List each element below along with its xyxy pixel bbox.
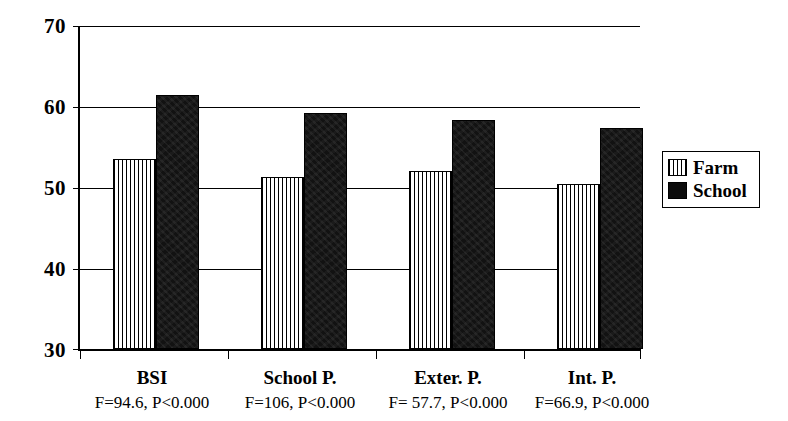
y-tick-label-40: 40 <box>20 259 66 280</box>
y-tick-mark-40 <box>73 269 81 270</box>
y-tick-label-60: 60 <box>20 97 66 118</box>
legend-swatch-farm-icon <box>668 159 687 176</box>
legend-item-school: School <box>668 179 754 202</box>
legend-label-farm: Farm <box>693 158 738 177</box>
y-tick-mark-70 <box>73 26 81 27</box>
y-tick-label-70: 70 <box>20 16 66 37</box>
gridline-70 <box>80 26 640 27</box>
chart-legend: Farm School <box>662 151 760 208</box>
bar-school-school-p <box>304 113 347 349</box>
category-label-bsi: BSI <box>78 368 226 388</box>
x-tick-mark-4 <box>640 349 641 359</box>
category-stat-bsi: F=94.6, P<0.000 <box>78 392 226 413</box>
category-label-int-p: Int. P. <box>518 368 666 388</box>
category-stat-exter-p: F= 57.7, P<0.000 <box>374 392 522 413</box>
bar-farm-int-p <box>557 184 600 349</box>
y-tick-label-30: 30 <box>20 340 66 361</box>
y-tick-mark-50 <box>73 188 81 189</box>
y-axis-labels: 70 60 50 40 30 <box>14 0 66 421</box>
legend-label-school: School <box>693 181 747 200</box>
bar-school-bsi <box>156 95 199 349</box>
category-label-school-p: School P. <box>226 368 374 388</box>
x-tick-mark-0 <box>80 349 81 359</box>
y-tick-label-50: 50 <box>20 178 66 199</box>
category-stat-int-p: F=66.9, P<0.000 <box>518 392 666 413</box>
x-tick-mark-1 <box>228 349 229 359</box>
category-label-exter-p: Exter. P. <box>374 368 522 388</box>
x-tick-mark-3 <box>524 349 525 359</box>
bar-school-exter-p <box>452 120 495 349</box>
x-tick-mark-2 <box>376 349 377 359</box>
grouped-bar-chart: 70 60 50 40 30 <box>0 0 788 421</box>
legend-item-farm: Farm <box>668 156 754 179</box>
bar-farm-exter-p <box>409 171 452 349</box>
category-group-school-p: School P. F=106, P<0.000 <box>226 368 374 413</box>
category-stat-school-p: F=106, P<0.000 <box>226 392 374 413</box>
bar-school-int-p <box>600 128 643 349</box>
plot-area <box>78 26 640 351</box>
bar-farm-school-p <box>261 177 304 349</box>
category-group-exter-p: Exter. P. F= 57.7, P<0.000 <box>374 368 522 413</box>
y-tick-mark-60 <box>73 107 81 108</box>
legend-swatch-school-icon <box>668 182 687 199</box>
category-group-bsi: BSI F=94.6, P<0.000 <box>78 368 226 413</box>
bar-farm-bsi <box>113 159 156 349</box>
category-group-int-p: Int. P. F=66.9, P<0.000 <box>518 368 666 413</box>
